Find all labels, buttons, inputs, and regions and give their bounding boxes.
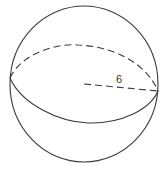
radius-line <box>84 84 158 91</box>
radius-label: 6 <box>116 74 122 85</box>
equator-front-solid <box>10 78 158 123</box>
sphere-diagram: 6 <box>0 0 163 175</box>
sphere-svg <box>0 0 163 175</box>
